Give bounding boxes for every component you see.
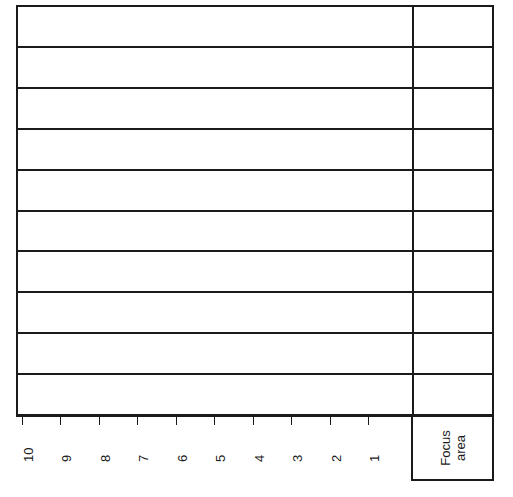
focus-column-divider	[412, 5, 414, 416]
axis-tick-label: 8	[99, 428, 113, 462]
axis-tick	[60, 416, 61, 425]
table-row[interactable]	[18, 130, 492, 171]
ranking-grid	[16, 5, 494, 416]
axis-tick	[22, 416, 23, 425]
axis-tick-label: 7	[137, 428, 151, 462]
table-row[interactable]	[18, 48, 492, 89]
axis-tick	[214, 416, 215, 425]
focus-area-label-line2: area	[453, 430, 468, 465]
table-row[interactable]	[18, 171, 492, 212]
axis-tick-label: 9	[60, 428, 74, 462]
focus-area-label: Focus area	[438, 430, 468, 465]
table-row[interactable]	[18, 293, 492, 334]
axis-tick	[137, 416, 138, 425]
axis-tick	[99, 416, 100, 425]
table-row[interactable]	[18, 375, 492, 414]
axis-tick-label: 10	[22, 428, 36, 462]
axis-tick	[330, 416, 331, 425]
figure-canvas: 10 9 8 7 6 5 4 3 2 1 Focus area	[0, 0, 513, 497]
axis-tick	[368, 416, 369, 425]
table-row[interactable]	[18, 334, 492, 375]
axis-tick	[253, 416, 254, 425]
axis-tick-label: 2	[330, 428, 344, 462]
table-row[interactable]	[18, 212, 492, 253]
focus-area-cell: Focus area	[411, 415, 494, 481]
table-row[interactable]	[18, 89, 492, 130]
axis-tick-label: 4	[253, 428, 267, 462]
axis-tick	[176, 416, 177, 425]
grid-row-list	[18, 7, 492, 414]
axis-tick-label: 5	[214, 428, 228, 462]
axis-tick	[291, 416, 292, 425]
focus-area-label-line1: Focus	[438, 430, 453, 465]
axis-tick-label: 1	[368, 428, 382, 462]
axis-tick-label: 6	[176, 428, 190, 462]
table-row[interactable]	[18, 252, 492, 293]
axis-tick-label: 3	[291, 428, 305, 462]
table-row[interactable]	[18, 7, 492, 48]
